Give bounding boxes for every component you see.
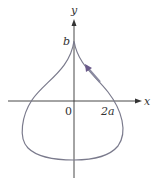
y-axis-arrow-icon <box>72 19 77 26</box>
x-axis-label: x <box>144 95 151 108</box>
x-axis-arrow-icon <box>135 99 142 104</box>
teardrop-curve <box>22 41 123 160</box>
origin-label: 0 <box>65 105 72 118</box>
curve-diagram: y x b 0 2a <box>0 0 155 183</box>
y-tick-label: b <box>63 35 70 48</box>
x-tick-label: 2a <box>100 105 115 118</box>
y-axis-label: y <box>70 4 78 17</box>
